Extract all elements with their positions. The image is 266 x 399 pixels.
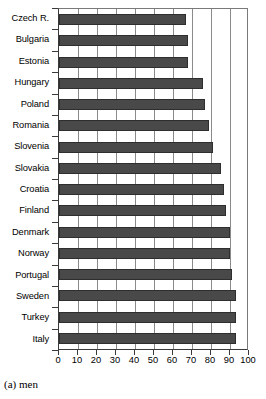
bar xyxy=(59,227,230,238)
bar-row xyxy=(59,200,247,221)
category-label: Norway xyxy=(0,243,52,264)
bar-row xyxy=(59,243,247,264)
category-label: Croatia xyxy=(0,179,52,200)
category-label: Hungary xyxy=(0,72,52,93)
value-tick-label: 20 xyxy=(91,356,101,365)
bar-series xyxy=(59,9,247,349)
bar xyxy=(59,205,226,216)
bar-row xyxy=(59,137,247,158)
figure-caption: (a) men xyxy=(4,378,38,390)
value-tick-label: 50 xyxy=(148,356,158,365)
bar xyxy=(59,248,230,259)
category-label: Romania xyxy=(0,115,52,136)
bar xyxy=(59,290,236,301)
bar-row xyxy=(59,115,247,136)
bar xyxy=(59,78,203,89)
bar-row xyxy=(59,9,247,30)
bar xyxy=(59,184,224,195)
bar-row xyxy=(59,52,247,73)
value-tick-label: 30 xyxy=(110,356,120,365)
bar xyxy=(59,142,213,153)
bar xyxy=(59,312,236,323)
value-axis: 0102030405060708090100 xyxy=(58,350,248,370)
value-tick-label: 10 xyxy=(72,356,82,365)
value-tick-label: 0 xyxy=(55,356,60,365)
bar-row xyxy=(59,328,247,349)
value-tick-label: 60 xyxy=(167,356,177,365)
category-label: Poland xyxy=(0,94,52,115)
bar-row xyxy=(59,30,247,51)
value-tick-label: 40 xyxy=(129,356,139,365)
bar xyxy=(59,35,188,46)
bar xyxy=(59,163,221,174)
bar-row xyxy=(59,264,247,285)
category-label: Italy xyxy=(0,329,52,350)
category-label: Denmark xyxy=(0,222,52,243)
bar xyxy=(59,333,236,344)
category-label: Slovenia xyxy=(0,136,52,157)
category-label: Bulgaria xyxy=(0,29,52,50)
category-label: Slovakia xyxy=(0,158,52,179)
bar-chart-figure: Czech R.BulgariaEstoniaHungaryPolandRoma… xyxy=(0,0,266,399)
bar-row xyxy=(59,73,247,94)
category-label: Turkey xyxy=(0,307,52,328)
chart-plot-region: Czech R.BulgariaEstoniaHungaryPolandRoma… xyxy=(0,0,266,368)
value-tick-label: 100 xyxy=(240,356,256,365)
category-label: Czech R. xyxy=(0,8,52,29)
category-label: Estonia xyxy=(0,51,52,72)
bar xyxy=(59,269,232,280)
bar-row xyxy=(59,158,247,179)
category-label: Sweden xyxy=(0,286,52,307)
category-axis-labels: Czech R.BulgariaEstoniaHungaryPolandRoma… xyxy=(0,8,52,350)
category-label: Finland xyxy=(0,200,52,221)
bar-row xyxy=(59,222,247,243)
value-tick-label: 70 xyxy=(186,356,196,365)
bar-row xyxy=(59,307,247,328)
value-tick-label: 80 xyxy=(205,356,215,365)
bar-row xyxy=(59,179,247,200)
plot-frame xyxy=(58,8,248,350)
bar xyxy=(59,99,205,110)
category-label: Portugal xyxy=(0,265,52,286)
bar xyxy=(59,120,209,131)
bar xyxy=(59,14,186,25)
bar-row xyxy=(59,285,247,306)
value-tick-label: 90 xyxy=(224,356,234,365)
bar xyxy=(59,57,188,68)
bar-row xyxy=(59,94,247,115)
